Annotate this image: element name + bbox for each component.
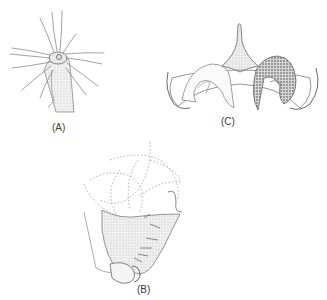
panel-b-illustration: [80, 140, 260, 300]
panel-a-label: (A): [52, 123, 65, 133]
panel-a-illustration: [0, 0, 160, 140]
panel-a: (A): [0, 0, 160, 140]
panel-b-label: (B): [137, 285, 150, 295]
panel-c-illustration: [160, 0, 327, 140]
panel-c: (C): [160, 0, 327, 140]
panel-c-label: (C): [221, 117, 235, 127]
panel-b: (B): [80, 140, 260, 300]
scientific-figure: (A): [0, 0, 327, 300]
